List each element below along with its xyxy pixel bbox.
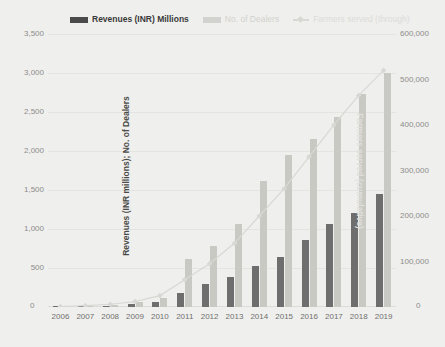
bar-revenues (376, 194, 383, 307)
y-axis-left-tick-label: 1,000 (4, 224, 44, 233)
x-axis-tick-label: 2009 (123, 312, 148, 321)
bar-revenues (152, 302, 159, 307)
plot-area: Revenues (INR millions); No. of Dealers … (48, 34, 396, 307)
bar-dealers (111, 305, 118, 307)
bar-revenues (53, 306, 60, 307)
bar-revenues (128, 304, 135, 307)
y-axis-left-title: Revenues (INR millions); No. of Dealers (121, 96, 131, 256)
bar-groups (48, 34, 396, 307)
legend-item-revenues: Revenues (INR) Millions (70, 15, 189, 24)
y-axis-right-tick-label: 200,000 (400, 211, 445, 220)
bar-group (272, 34, 297, 307)
y-axis-right-tick-label: 500,000 (400, 75, 445, 84)
bar-dealers (86, 306, 93, 307)
bar-revenues (326, 224, 333, 307)
bar-group (297, 34, 322, 307)
y-axis-right-tick-label: 100,000 (400, 257, 445, 266)
legend-label-farmers: Farmers served (through) (313, 15, 409, 24)
bar-dealers (285, 155, 292, 307)
y-axis-right-tick-label: 600,000 (400, 29, 445, 38)
legend-item-dealers: No. of Dealers (203, 15, 279, 24)
x-axis-tick-label: 2017 (321, 312, 346, 321)
bar-revenues (177, 293, 184, 307)
bar-dealers (235, 224, 242, 307)
y-axis-left-tick-label: 500 (4, 263, 44, 272)
bar-group (371, 34, 396, 307)
bar-revenues (227, 277, 234, 307)
legend-label-revenues: Revenues (INR) Millions (92, 15, 189, 24)
x-axis-tick-label: 2007 (73, 312, 98, 321)
bar-revenues (277, 257, 284, 307)
bar-dealers (185, 259, 192, 307)
bar-dealers (334, 117, 341, 307)
y-axis-left-tick-label: 3,500 (4, 29, 44, 38)
x-axis-tick-label: 2006 (48, 312, 73, 321)
y-axis-left-tick-label: 2,500 (4, 107, 44, 116)
x-axis-tick-label: 2015 (272, 312, 297, 321)
bar-dealers (260, 181, 267, 307)
legend-label-dealers: No. of Dealers (225, 15, 279, 24)
x-axis-tick-label: 2010 (147, 312, 172, 321)
bar-group (48, 34, 73, 307)
bar-group (147, 34, 172, 307)
x-axis-tick-label: 2019 (371, 312, 396, 321)
legend-swatch-revenues-icon (70, 17, 88, 23)
bar-group (197, 34, 222, 307)
x-axis-tick-label: 2008 (98, 312, 123, 321)
bar-revenues (78, 306, 85, 307)
y-axis-left-tick-label: 2,000 (4, 146, 44, 155)
bar-group (73, 34, 98, 307)
y-axis-right-zero: 0 (416, 301, 420, 310)
y-axis-left-zero: 0 (30, 301, 34, 310)
x-axis-tick-label: 2018 (346, 312, 371, 321)
x-axis-tick-label: 2016 (297, 312, 322, 321)
bar-dealers (210, 246, 217, 307)
x-axis-tick-label: 2014 (247, 312, 272, 321)
bar-revenues (103, 306, 110, 307)
y-axis-right-tick-label: 300,000 (400, 166, 445, 175)
x-axis-tick-label: 2012 (197, 312, 222, 321)
chart-container: Revenues (INR) Millions No. of Dealers F… (0, 0, 445, 347)
x-axis-tick-label: 2011 (172, 312, 197, 321)
y-axis-right-tick-label: 400,000 (400, 120, 445, 129)
x-axis-ticks: 2006200720082009201020112012201320142015… (48, 312, 396, 321)
bar-dealers (160, 298, 167, 307)
bar-group (98, 34, 123, 307)
bar-dealers (310, 139, 317, 307)
y-axis-right-title: Farmers served (cumulative) (355, 113, 365, 229)
bar-revenues (202, 284, 209, 307)
x-axis-tick-label: 2013 (222, 312, 247, 321)
legend-swatch-dealers-icon (203, 17, 221, 23)
bar-group (247, 34, 272, 307)
legend-item-farmers: Farmers served (through) (293, 15, 409, 24)
legend-line-marker-farmers-icon (293, 17, 309, 23)
bar-group (321, 34, 346, 307)
y-axis-left-tick-label: 3,000 (4, 68, 44, 77)
bar-revenues (302, 240, 309, 307)
y-axis-left-tick-label: 1,500 (4, 185, 44, 194)
bar-dealers (61, 306, 68, 307)
chart-legend: Revenues (INR) Millions No. of Dealers F… (70, 15, 410, 24)
bar-group (222, 34, 247, 307)
bar-dealers (136, 302, 143, 307)
bar-dealers (384, 73, 391, 307)
bar-revenues (252, 266, 259, 307)
bar-group (172, 34, 197, 307)
